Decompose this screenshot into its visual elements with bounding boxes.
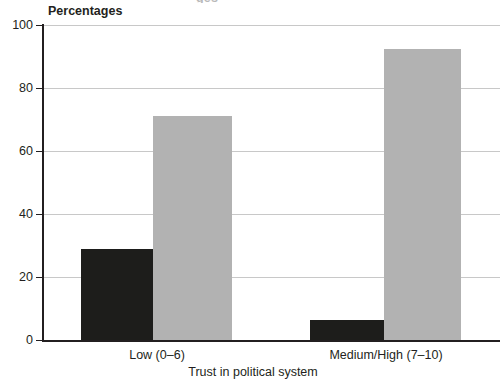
tick-mark-80 xyxy=(36,88,42,89)
y-tick-label-0: 0 xyxy=(26,333,33,347)
bar-dark-low xyxy=(81,249,159,340)
tick-mark-100 xyxy=(36,25,42,26)
bar-light-low xyxy=(153,116,232,340)
axis-baseline xyxy=(42,340,500,342)
tick-mark-40 xyxy=(36,214,42,215)
tick-mark-60 xyxy=(36,151,42,152)
cut-off-title-remnant: ges xyxy=(196,0,316,3)
y-tick-label-40: 40 xyxy=(19,207,33,221)
y-tick-label-100: 100 xyxy=(12,18,33,32)
plot-area: 100 80 60 40 20 0 xyxy=(42,25,500,340)
y-tick-label-60: 60 xyxy=(19,144,33,158)
bar-chart: ges Percentages 100 80 60 40 20 0 Low (0… xyxy=(0,0,502,384)
x-category-label-low: Low (0–6) xyxy=(129,348,185,362)
tick-mark-20 xyxy=(36,277,42,278)
gridline-100 xyxy=(42,25,500,26)
y-tick-label-80: 80 xyxy=(19,81,33,95)
y-axis-line xyxy=(42,24,44,341)
bar-dark-medium-high xyxy=(310,320,384,340)
x-category-label-medium-high: Medium/High (7–10) xyxy=(329,348,442,362)
y-axis-caption: Percentages xyxy=(48,4,122,18)
x-axis-title: Trust in political system xyxy=(188,365,317,379)
bar-light-medium-high xyxy=(384,49,461,340)
y-tick-label-20: 20 xyxy=(19,270,33,284)
tick-mark-0 xyxy=(36,340,42,341)
